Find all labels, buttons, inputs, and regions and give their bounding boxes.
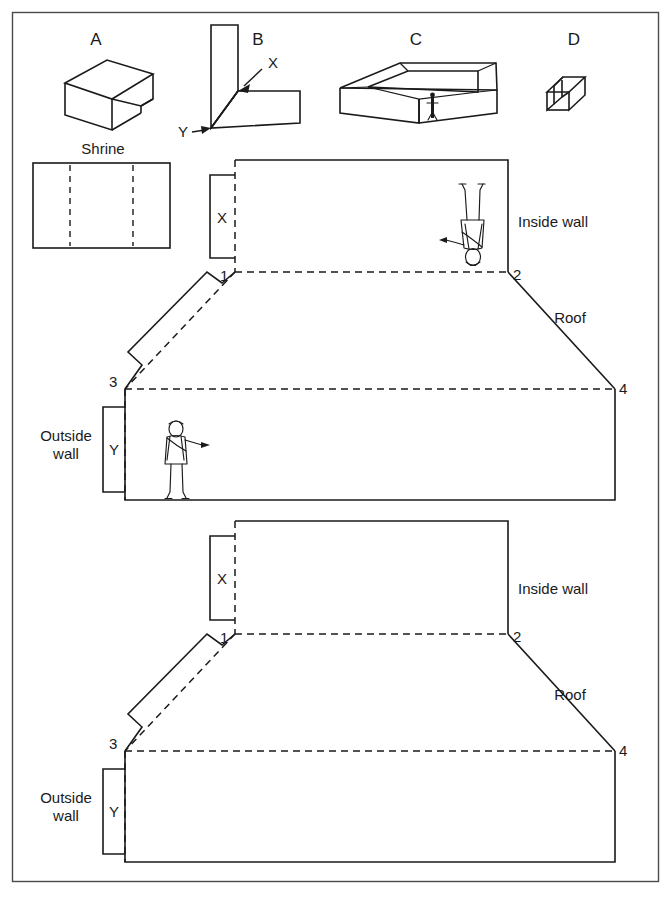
corner-4-label-lower: 4 xyxy=(619,742,627,759)
shape-c-label: C xyxy=(410,30,422,49)
marker-y-label: Y xyxy=(178,123,188,140)
corner-3-label-upper: 3 xyxy=(109,373,117,390)
fold-line-left-diagonal-lower xyxy=(125,634,235,751)
shrine-label: Shrine xyxy=(81,140,124,157)
outside-wall-label-line1-lower: Outside xyxy=(40,789,92,806)
figure-page: A B C D X Y xyxy=(0,0,671,907)
outside-wall-label-line2-lower: wall xyxy=(52,807,79,824)
corner-2-label-upper: 2 xyxy=(513,266,521,283)
inside-wall-label-lower: Inside wall xyxy=(518,580,588,597)
shape-d-label: D xyxy=(568,30,580,49)
unfolded-net-lower: X Inside wall 1 2 Roof 3 4 Y Outside wal… xyxy=(40,521,627,862)
shape-c-open-tray xyxy=(340,63,497,123)
corner-3-label-lower: 3 xyxy=(109,735,117,752)
tab-x-label-lower: X xyxy=(217,570,227,587)
outside-wall-label-line2-upper: wall xyxy=(52,445,79,462)
outside-wall-panel-lower xyxy=(125,751,615,862)
human-figure-inverted-inside-wall xyxy=(439,184,485,266)
technical-diagram-canvas: A B C D X Y xyxy=(0,0,671,907)
shape-b-corner-fold: X Y xyxy=(178,25,300,140)
roof-label-lower: Roof xyxy=(554,686,587,703)
human-figure-standing-outside-wall xyxy=(165,421,210,499)
y-arrowhead xyxy=(201,126,211,134)
inside-wall-label-upper: Inside wall xyxy=(518,213,588,230)
shape-b-label: B xyxy=(252,30,263,49)
shape-a-slab-with-notch xyxy=(65,60,153,130)
fold-line-left-diagonal-upper xyxy=(125,272,235,389)
tab-y-label-upper: Y xyxy=(109,441,119,458)
corner-4-label-upper: 4 xyxy=(619,380,627,397)
shape-d-channel xyxy=(547,77,585,110)
roof-label-upper: Roof xyxy=(554,309,587,326)
corner-2-label-lower: 2 xyxy=(513,628,521,645)
outside-wall-label-line1-upper: Outside xyxy=(40,427,92,444)
shrine-outline xyxy=(33,163,170,248)
tab-x-label-upper: X xyxy=(217,209,227,226)
unfolded-net-upper: X Inside wall 1 2 Roof 3 4 Y Outside wal… xyxy=(40,160,627,500)
marker-x-label: X xyxy=(268,54,278,71)
shape-a-label: A xyxy=(90,30,102,49)
tab-y-label-lower: Y xyxy=(109,803,119,820)
shrine-plan: Shrine xyxy=(33,140,170,248)
inside-wall-panel-lower xyxy=(235,521,508,634)
roof-diagonal-upper xyxy=(508,272,615,389)
x-leader-line xyxy=(244,69,262,86)
